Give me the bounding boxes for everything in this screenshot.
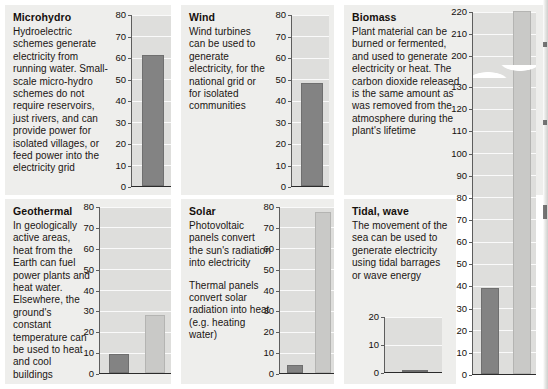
bar-electricity	[142, 55, 164, 186]
y-axis-tick-label: 30	[83, 307, 99, 317]
x-axis-line	[279, 373, 334, 374]
y-axis-tick-label: 40	[115, 96, 131, 106]
gridline	[100, 248, 171, 249]
y-axis-line	[131, 15, 132, 187]
panel-microhydro: Microhydro Hydroelectric schemes generat…	[5, 5, 171, 195]
y-axis-tick-label: 60	[83, 244, 99, 254]
panel-title: Wind	[189, 11, 267, 24]
gridline	[280, 207, 334, 208]
panel-solar: Solar Photovoltaic panels convert the su…	[181, 199, 334, 384]
y-axis-line	[291, 15, 292, 187]
y-axis-tick-label: 20	[275, 139, 291, 149]
y-axis-tick-label: 40	[456, 282, 472, 292]
y-axis-tick-label: 10	[456, 348, 472, 358]
y-axis-tick-label: 60	[115, 53, 131, 63]
panel-paragraph: Photovoltaic panels convert the sun's ra…	[189, 220, 271, 270]
x-axis-line	[472, 374, 536, 375]
y-axis-tick-label: 20	[83, 328, 99, 338]
y-axis-tick-label: 50	[456, 260, 472, 270]
gridline	[132, 15, 171, 16]
y-axis-tick-label: 200	[451, 52, 472, 62]
chart-wind: 01020304050607080	[291, 15, 329, 187]
y-axis-line	[472, 12, 473, 375]
y-axis-tick-label: 70	[83, 223, 99, 233]
panel-wind: Wind Wind turbines can be used to genera…	[181, 5, 334, 195]
page-edge-mark	[543, 42, 547, 47]
panel-paragraph: The movement of the sea can be used to g…	[352, 220, 448, 282]
y-axis-tick-label: 30	[263, 307, 279, 317]
y-axis-tick-label: 10	[275, 161, 291, 171]
y-axis-tick-label: 50	[83, 265, 99, 275]
y-axis-tick-label: 80	[83, 202, 99, 212]
panel-geothermal: Geothermal In geologically active areas,…	[5, 199, 171, 384]
panel-title: Microhydro	[13, 11, 113, 24]
y-axis-tick-label: 50	[115, 75, 131, 85]
chart-tidal-wave: 01020	[384, 317, 442, 373]
y-axis-tick-label: 10	[263, 348, 279, 358]
y-axis-tick-label: 0	[462, 370, 472, 380]
y-axis-tick-label: 60	[275, 53, 291, 63]
y-axis-tick-label: 50	[275, 75, 291, 85]
y-axis-tick-label: 110	[452, 127, 472, 137]
plot-area	[131, 15, 171, 187]
gridline	[385, 345, 442, 346]
plot-area	[291, 15, 329, 187]
x-axis-line	[291, 186, 329, 187]
panel-paragraph: Wind turbines can be used to generate el…	[189, 26, 267, 113]
gridline	[385, 317, 442, 318]
y-axis-tick-label: 20	[115, 139, 131, 149]
y-axis-tick-label: 10	[368, 340, 384, 350]
y-axis-tick-label: 40	[275, 96, 291, 106]
y-axis-tick-label: 70	[263, 223, 279, 233]
y-axis-line	[99, 207, 100, 374]
y-axis-tick-label: 210	[451, 29, 472, 39]
panel-title: Tidal, wave	[352, 205, 448, 218]
y-axis-tick-label: 30	[275, 118, 291, 128]
y-axis-tick-label: 20	[368, 312, 384, 322]
chart-solar: 01020304050607080	[279, 207, 334, 374]
panel-text-geothermal: Geothermal In geologically active areas,…	[13, 205, 91, 381]
y-axis-tick-label: 70	[456, 215, 472, 225]
y-axis-tick-label: 30	[456, 304, 472, 314]
gridline	[132, 36, 171, 37]
panel-text-wind: Wind Wind turbines can be used to genera…	[189, 11, 267, 113]
bar-heat	[315, 212, 331, 373]
y-axis-tick-label: 40	[263, 286, 279, 296]
y-axis-line	[384, 317, 385, 373]
y-axis-tick-label: 70	[115, 32, 131, 42]
panel-text-biomass: Biomass Plant material can be burned or …	[352, 11, 460, 138]
y-axis-tick-label: 0	[121, 182, 131, 192]
panel-title: Biomass	[352, 11, 460, 24]
bar-heat	[145, 315, 165, 373]
y-axis-tick-label: 100	[451, 149, 472, 159]
figure-sheet: Microhydro Hydroelectric schemes generat…	[0, 0, 548, 389]
panel-paragraph: In geologically active areas, heat from …	[13, 220, 91, 381]
panel-title: Solar	[189, 205, 271, 218]
gridline	[292, 36, 329, 37]
gridline	[292, 15, 329, 16]
panel-tidal-wave: Tidal, wave The movement of the sea can …	[344, 199, 456, 384]
y-axis-tick-label: 80	[115, 10, 131, 20]
y-axis-tick-label: 50	[263, 265, 279, 275]
y-axis-tick-label: 0	[374, 368, 384, 378]
plot-area	[472, 12, 536, 375]
y-axis-tick-label: 80	[275, 10, 291, 20]
gridline	[100, 269, 171, 270]
y-axis-tick-label: 20	[456, 326, 472, 336]
y-axis-tick-label: 70	[275, 32, 291, 42]
x-axis-line	[99, 373, 171, 374]
y-axis-tick-label: 80	[263, 202, 279, 212]
panel-paragraph: Thermal panels convert solar radiation i…	[189, 280, 271, 342]
panel-title: Geothermal	[13, 205, 91, 218]
y-axis-tick-label: 40	[83, 286, 99, 296]
gridline	[100, 227, 171, 228]
x-axis-line	[384, 372, 442, 373]
bar-electricity	[301, 83, 322, 186]
chart-biomass: 0102030405060708090100110120130200210220	[472, 12, 536, 375]
gridline	[292, 58, 329, 59]
y-axis-tick-label: 120	[451, 105, 472, 115]
y-axis-tick-label: 0	[281, 182, 291, 192]
plot-area	[384, 317, 442, 373]
gridline	[100, 207, 171, 208]
panel-text-solar: Solar Photovoltaic panels convert the su…	[189, 205, 271, 342]
